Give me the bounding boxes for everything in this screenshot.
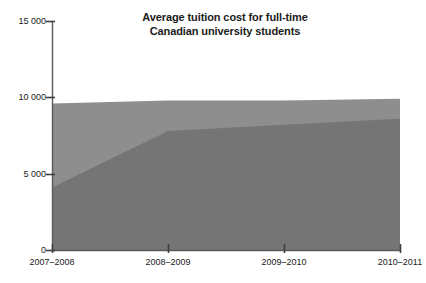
chart-container: Average tuition cost for full-time Canad… [0,0,426,283]
plot-area [0,0,426,283]
